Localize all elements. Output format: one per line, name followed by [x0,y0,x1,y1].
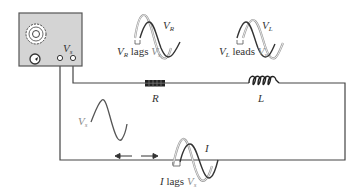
vr-lags-caption: VR lags Vs [117,45,161,59]
top-wire-left [73,59,145,83]
meter-dial-icon [30,54,40,64]
terminal-left[interactable] [57,55,62,60]
dial-knob-icon[interactable] [26,24,46,44]
source-waveform: Vs [78,100,158,159]
circuit-diagram: Vs R L Vs VR [0,0,363,194]
vl-leads-caption: VL leads Vs [219,45,267,59]
loop-wire [60,59,345,160]
i-lags-caption: I lags Vs [159,175,197,189]
vr-top-label: VR [163,19,175,33]
inductor-label: L [257,92,264,104]
current-phase-waveform: I I lags Vs [159,139,218,189]
oscilloscope: Vs [19,13,82,66]
current-top-label: I [204,142,210,154]
source-vs-label: Vs [78,115,88,129]
resistor-label: R [151,92,159,104]
resistor-phase-waveform: VR VR lags Vs [117,15,180,59]
circuit-wires [60,59,345,160]
vl-top-label: VL [262,19,273,33]
inductor-coil [249,76,279,84]
terminal-right[interactable] [70,55,75,60]
double-arrow-icon [115,154,158,159]
inductor-phase-waveform: VL VL leads Vs [219,19,283,59]
inductor: L [249,76,279,104]
resistor: R [145,80,165,104]
